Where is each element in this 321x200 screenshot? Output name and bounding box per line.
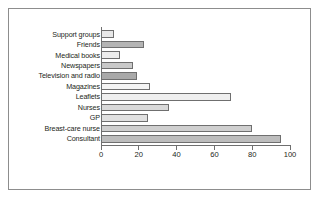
bar [101,41,144,49]
bar [101,72,137,80]
x-axis-tick [290,146,291,150]
bar [101,114,148,122]
bar [101,83,150,91]
bar-row [101,123,290,133]
bar-row [101,134,290,144]
bar-row [101,60,290,70]
category-label: Breast-care nurse [15,123,100,133]
bar-row [101,50,290,60]
bar [101,93,231,101]
x-axis-tick-label: 100 [284,151,297,159]
bar-chart: Support groups Friends Medical books New… [9,9,312,191]
bar-row [101,39,290,49]
category-label: GP [15,113,100,123]
bar [101,125,252,133]
category-label: Newspapers [15,60,100,70]
bar [101,30,114,38]
bar [101,135,281,143]
category-label: Nurses [15,102,100,112]
category-label: Television and radio [15,71,100,81]
x-axis-tick-label: 0 [99,151,103,159]
category-label: Support groups [15,29,100,39]
x-axis-line [101,145,291,146]
bars-container [101,29,290,144]
bar [101,51,120,59]
x-axis-tick [176,146,177,150]
bar-row [101,102,290,112]
x-axis-tick [214,146,215,150]
x-axis-tick-label: 80 [248,151,256,159]
x-axis-tick [138,146,139,150]
x-axis-tick-label: 40 [172,151,180,159]
bar-row [101,81,290,91]
category-axis-labels: Support groups Friends Medical books New… [15,29,100,144]
x-axis-tick [252,146,253,150]
category-label: Medical books [15,50,100,60]
y-axis-line [101,27,102,146]
bar [101,104,169,112]
category-label: Consultant [15,134,100,144]
bar [101,62,133,70]
category-label: Magazines [15,81,100,91]
bar-row [101,92,290,102]
bar-row [101,29,290,39]
category-label: Leaflets [15,92,100,102]
chart-frame: Support groups Friends Medical books New… [8,8,311,190]
bar-row [101,71,290,81]
bar-row [101,113,290,123]
x-axis-tick-label: 20 [135,151,143,159]
category-label: Friends [15,39,100,49]
x-axis-tick [101,146,102,150]
x-axis-tick-label: 60 [210,151,218,159]
